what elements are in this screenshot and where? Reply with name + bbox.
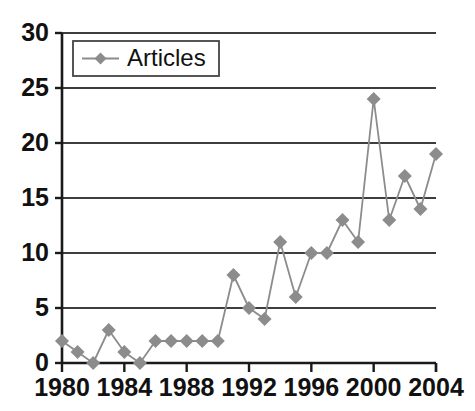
x-axis bbox=[62, 363, 436, 372]
x-tick-label-1992: 1992 bbox=[221, 373, 277, 401]
x-tick-labels: 1980198419881992199620002004 bbox=[34, 373, 464, 401]
y-tick-label-5: 5 bbox=[35, 293, 49, 321]
x-tick-label-1996: 1996 bbox=[284, 373, 340, 401]
data-point-1981 bbox=[71, 345, 85, 359]
y-axis bbox=[55, 33, 62, 363]
data-point-2001 bbox=[382, 213, 396, 227]
data-point-1995 bbox=[289, 290, 303, 304]
x-tick-label-1988: 1988 bbox=[159, 373, 215, 401]
data-point-1987 bbox=[164, 334, 178, 348]
data-point-2003 bbox=[413, 202, 427, 216]
data-point-1989 bbox=[195, 334, 209, 348]
data-point-1984 bbox=[117, 345, 131, 359]
x-tick-label-2000: 2000 bbox=[346, 373, 402, 401]
data-point-1999 bbox=[351, 235, 365, 249]
data-point-2002 bbox=[398, 169, 412, 183]
y-tick-label-25: 25 bbox=[21, 73, 49, 101]
data-point-1985 bbox=[133, 356, 147, 370]
data-point-1993 bbox=[258, 312, 272, 326]
y-tick-label-10: 10 bbox=[21, 238, 49, 266]
data-point-1997 bbox=[320, 246, 334, 260]
y-tick-label-30: 30 bbox=[21, 18, 49, 46]
data-point-1994 bbox=[273, 235, 287, 249]
data-point-1980 bbox=[55, 334, 69, 348]
data-point-1998 bbox=[336, 213, 350, 227]
y-tick-labels: 051015202530 bbox=[21, 18, 49, 376]
data-point-1988 bbox=[180, 334, 194, 348]
chart-legend: Articles bbox=[73, 41, 219, 76]
data-point-1991 bbox=[226, 268, 240, 282]
series-line-articles bbox=[62, 99, 436, 363]
series-markers-articles bbox=[55, 92, 443, 370]
chart-canvas: 051015202530 198019841988199219962000200… bbox=[0, 0, 475, 411]
articles-line-chart: 051015202530 198019841988199219962000200… bbox=[0, 0, 475, 411]
y-tick-label-0: 0 bbox=[35, 348, 49, 376]
data-point-1982 bbox=[86, 356, 100, 370]
data-point-2000 bbox=[367, 92, 381, 106]
data-point-1992 bbox=[242, 301, 256, 315]
y-tick-label-15: 15 bbox=[21, 183, 49, 211]
data-point-1990 bbox=[211, 334, 225, 348]
data-point-1986 bbox=[149, 334, 163, 348]
data-point-1996 bbox=[304, 246, 318, 260]
x-tick-label-2004: 2004 bbox=[408, 373, 464, 401]
x-tick-label-1980: 1980 bbox=[34, 373, 90, 401]
y-tick-label-20: 20 bbox=[21, 128, 49, 156]
data-point-1983 bbox=[102, 323, 116, 337]
data-point-2004 bbox=[429, 147, 443, 161]
x-tick-label-1984: 1984 bbox=[97, 373, 153, 401]
series-polyline bbox=[62, 99, 436, 363]
legend-label-articles: Articles bbox=[127, 44, 206, 71]
